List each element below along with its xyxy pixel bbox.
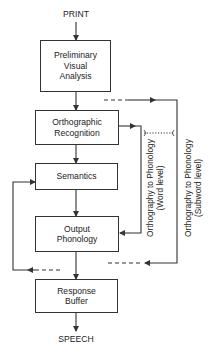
route-label-subword-level: Orthography to Phonology (Subword level)	[183, 128, 203, 248]
box-response-buffer: Response Buffer	[35, 279, 118, 313]
feedback-loop-line	[13, 182, 30, 270]
route-label-line: (Word level)	[155, 128, 165, 248]
word-route-line	[130, 126, 141, 233]
route-label-line: Orthography to Phonology	[183, 128, 193, 248]
input-label-print: PRINT	[36, 9, 116, 19]
route-label-line: Orthography to Phonology	[145, 128, 155, 248]
route-label-line: (Subword level)	[193, 128, 203, 248]
box-line: Preliminary	[54, 50, 97, 61]
box-line: Phonology	[57, 234, 98, 245]
box-output-phonology: Output Phonology	[35, 216, 119, 252]
route-label-word-level: Orthography to Phonology (Word level)	[145, 128, 165, 248]
box-line: Orthographic	[52, 117, 102, 128]
box-line: Recognition	[52, 128, 102, 139]
box-line: Response	[57, 286, 96, 297]
box-semantics: Semantics	[35, 163, 118, 190]
box-line: Analysis	[54, 71, 97, 82]
box-preliminary-visual-analysis: Preliminary Visual Analysis	[40, 40, 111, 92]
box-line: Semantics	[56, 171, 96, 182]
box-line: Buffer	[57, 296, 96, 307]
output-label-speech: SPEECH	[36, 334, 116, 344]
box-line: Visual	[54, 61, 97, 72]
box-orthographic-recognition: Orthographic Recognition	[35, 110, 119, 145]
box-line: Output	[57, 224, 98, 235]
